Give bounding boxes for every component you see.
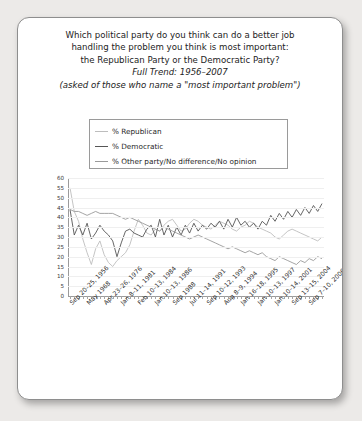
y-axis-tick-label: 15 bbox=[57, 264, 64, 270]
gridline bbox=[68, 188, 324, 189]
gridline bbox=[68, 237, 324, 238]
legend-swatch-icon-republican bbox=[95, 131, 108, 132]
gridline bbox=[68, 198, 324, 199]
legend-swatch-icon-democratic bbox=[95, 146, 108, 147]
chart-legend: % Republican % Democratic % Other party/… bbox=[89, 119, 288, 169]
legend-swatch-icon-other bbox=[95, 161, 108, 162]
x-axis-labels: Sep 20–25, 1956May 1968Apr 23–26, 1976Ja… bbox=[18, 299, 343, 399]
chart-card: Which political party do you think can d… bbox=[17, 17, 343, 400]
y-axis-tick-label: 30 bbox=[57, 234, 64, 240]
y-axis-tick-label: 45 bbox=[57, 205, 64, 211]
title-line-3: the Republican Party or the Democratic P… bbox=[28, 54, 332, 66]
y-axis-tick-label: 35 bbox=[57, 224, 64, 230]
chart-note: (asked of those who name a "most importa… bbox=[28, 79, 332, 91]
legend-label-other: % Other party/No difference/No opinion bbox=[112, 157, 256, 166]
title-line-2: handling the problem you think is most i… bbox=[28, 41, 332, 53]
y-axis-tick-label: 60 bbox=[57, 175, 64, 181]
legend-item-democratic: % Democratic bbox=[95, 139, 287, 154]
title-line-1: Which political party do you think can d… bbox=[28, 29, 332, 41]
series-line bbox=[70, 204, 322, 257]
legend-item-republican: % Republican bbox=[95, 124, 287, 139]
y-axis-tick-label: 55 bbox=[57, 185, 64, 191]
y-axis-tick-label: 10 bbox=[57, 273, 64, 279]
gridline bbox=[68, 217, 324, 218]
legend-item-other: % Other party/No difference/No opinion bbox=[95, 154, 287, 169]
chart-title-block: Which political party do you think can d… bbox=[18, 18, 342, 91]
legend-label-republican: % Republican bbox=[112, 127, 162, 136]
y-axis-tick-label: 25 bbox=[57, 244, 64, 250]
gridline bbox=[68, 208, 324, 209]
gridline bbox=[68, 227, 324, 228]
legend-label-democratic: % Democratic bbox=[112, 142, 163, 151]
y-axis-tick-label: 50 bbox=[57, 195, 64, 201]
gridline bbox=[68, 178, 324, 179]
y-axis-labels: 051015202530354045505560 bbox=[18, 178, 68, 296]
gridline bbox=[68, 247, 324, 248]
chart-subtitle: Full Trend: 1956–2007 bbox=[28, 66, 332, 78]
y-axis-tick-label: 5 bbox=[61, 283, 64, 289]
gridline bbox=[68, 257, 324, 258]
y-axis-tick-label: 20 bbox=[57, 254, 64, 260]
y-axis-tick-label: 40 bbox=[57, 214, 64, 220]
